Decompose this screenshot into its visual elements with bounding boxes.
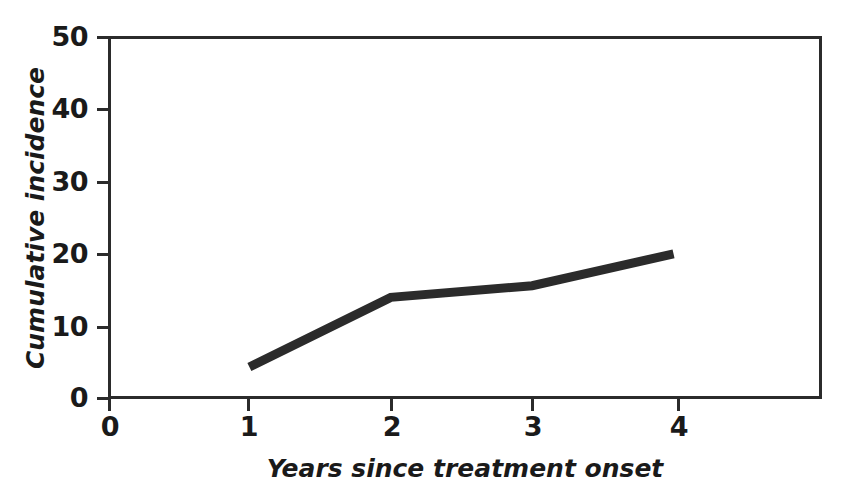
x-axis-title: Years since treatment onset — [108, 455, 822, 483]
y-axis-title: Cumulative incidence — [23, 66, 48, 368]
y-tick-10 — [97, 326, 109, 329]
y-tick-40 — [97, 108, 109, 111]
figure-chart: 50 40 30 20 10 0 0 1 2 3 4 Cumulative i — [0, 0, 848, 500]
x-tick-label-4: 4 — [649, 413, 709, 440]
y-tick-50 — [97, 36, 109, 39]
y-tick-20 — [97, 253, 109, 256]
x-tick-label-3: 3 — [503, 413, 563, 440]
x-tick-0 — [108, 399, 111, 411]
y-tick-30 — [97, 181, 109, 184]
x-tick-label-1: 1 — [219, 413, 279, 440]
x-tick-4 — [677, 399, 680, 411]
x-tick-label-0: 0 — [80, 413, 140, 440]
x-tick-1 — [247, 399, 250, 411]
x-tick-2 — [390, 399, 393, 411]
plot-area — [108, 36, 822, 399]
y-axis-title-holder: Cumulative incidence — [0, 36, 70, 399]
x-tick-label-2: 2 — [362, 413, 422, 440]
x-tick-3 — [531, 399, 534, 411]
